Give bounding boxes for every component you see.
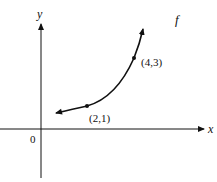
function-curve [56,29,143,113]
point-4-3 [132,56,136,60]
y-axis-label: y [36,7,43,21]
point-2-1-label: (2,1) [89,112,110,125]
point-2-1 [85,104,89,108]
function-graph: y x 0 f (2,1) (4,3) [0,0,217,182]
origin-label: 0 [30,133,36,145]
function-label: f [175,12,181,27]
point-4-3-label: (4,3) [141,56,162,69]
x-axis-label: x [207,122,214,136]
